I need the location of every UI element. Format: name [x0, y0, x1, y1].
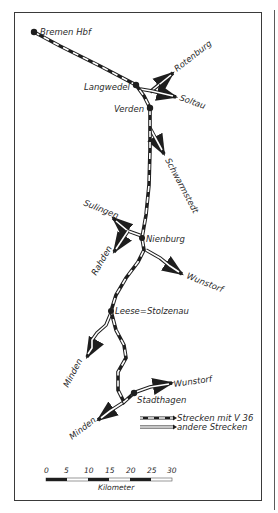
label-minden-lower: Minden — [67, 415, 98, 442]
scale-unit-label: Kilometer — [98, 483, 135, 492]
label-minden-upper: Minden — [61, 357, 84, 389]
station-dot-langwedel[interactable] — [133, 82, 139, 88]
legend: Strecken mit V 36 andere Strecken — [140, 413, 254, 432]
label-langwedel: Langwedel — [84, 82, 131, 92]
label-rahden: Rahden — [89, 244, 114, 277]
label-stadthagen: Stadthagen — [137, 395, 186, 405]
station-dot-verden[interactable] — [147, 105, 153, 111]
label-wunstorf-lower: Wunstorf — [173, 373, 215, 389]
label-wunstorf-upper: Wunstorf — [185, 271, 226, 295]
label-leese-stolzenau: Leese=Stolzenau — [115, 306, 189, 316]
label-rotenburg: Rotenburg — [172, 38, 214, 74]
scale-tick-5: 5 — [64, 466, 69, 475]
station-dot-leese[interactable] — [108, 308, 114, 314]
scale-bar: 0 5 10 15 20 25 30 Kilometer — [44, 466, 177, 492]
label-schwarmstedt: Schwarmstedt — [163, 156, 201, 215]
label-nienburg: Nienburg — [146, 234, 186, 244]
scale-tick-0: 0 — [44, 466, 49, 475]
other-lines — [87, 73, 182, 420]
label-verden: Verden — [114, 104, 144, 114]
label-sulingen: Sulingen — [82, 198, 120, 221]
railway-map: Bremen Hbf Langwedel Verden Nienburg Lee… — [0, 0, 278, 513]
scale-tick-10: 10 — [84, 466, 94, 475]
scale-tick-15: 15 — [105, 466, 115, 475]
label-bremen-hbf: Bremen Hbf — [40, 27, 93, 37]
scale-tick-30: 30 — [167, 466, 177, 475]
scale-tick-25: 25 — [147, 466, 157, 475]
station-dot-nienburg[interactable] — [139, 235, 145, 241]
legend-other: andere Strecken — [140, 422, 247, 432]
station-dot-bremen[interactable] — [31, 29, 37, 35]
legend-other-label: andere Strecken — [177, 422, 247, 432]
label-soltau: Soltau — [178, 92, 207, 111]
scale-tick-20: 20 — [126, 466, 136, 475]
